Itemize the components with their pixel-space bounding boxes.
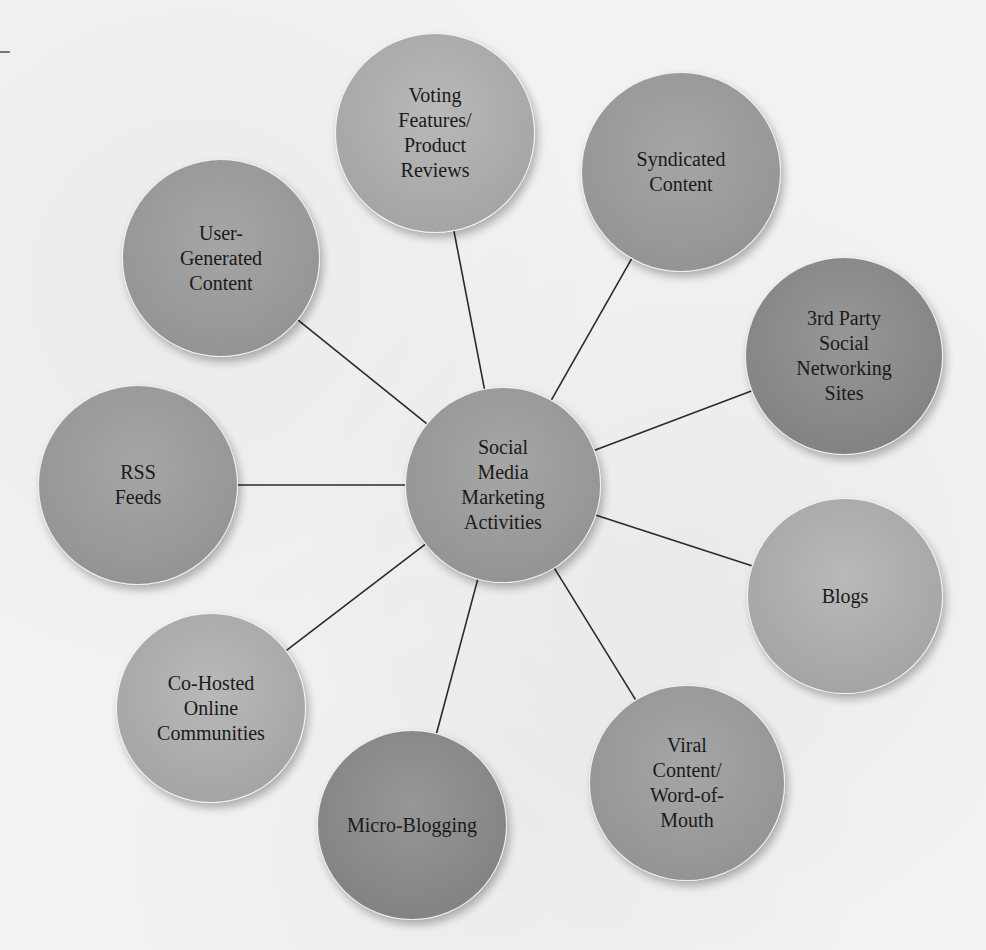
node-label: Syndicated Content: [627, 147, 736, 197]
node-label: Voting Features/ Product Reviews: [388, 83, 481, 183]
node-label: Viral Content/ Word-of- Mouth: [640, 733, 734, 833]
node-label: RSS Feeds: [105, 460, 172, 510]
node-user-generated-content: User- Generated Content: [122, 159, 320, 357]
connector-line-third-party: [595, 391, 752, 450]
connector-line-voting: [454, 231, 484, 389]
node-label: Micro-Blogging: [337, 813, 487, 838]
node-viral-content-word-of-mouth: Viral Content/ Word-of- Mouth: [589, 685, 785, 881]
connector-line-blogs: [596, 515, 752, 565]
center-node-social-media-marketing: Social Media Marketing Activities: [405, 387, 601, 583]
node-syndicated-content: Syndicated Content: [581, 72, 781, 272]
social-media-marketing-diagram: Social Media Marketing Activities Voting…: [0, 0, 986, 950]
connector-line-syndicated: [551, 259, 631, 400]
center-node-label: Social Media Marketing Activities: [451, 435, 554, 535]
node-voting-features-product-reviews: Voting Features/ Product Reviews: [335, 33, 535, 233]
node-label: Co-Hosted Online Communities: [147, 671, 275, 746]
node-label: User- Generated Content: [170, 221, 272, 296]
connector-line-co-hosted: [287, 544, 426, 650]
connector-line-user-generated: [298, 320, 427, 423]
node-rss-feeds: RSS Feeds: [38, 385, 238, 585]
connector-line-viral: [554, 568, 635, 699]
connector-line-micro-blogging: [437, 580, 478, 734]
node-micro-blogging: Micro-Blogging: [317, 730, 507, 920]
node-label: Blogs: [812, 584, 879, 609]
node-blogs: Blogs: [747, 498, 943, 694]
node-3rd-party-social-networking-sites: 3rd Party Social Networking Sites: [745, 257, 943, 455]
node-label: 3rd Party Social Networking Sites: [786, 306, 902, 406]
node-co-hosted-online-communities: Co-Hosted Online Communities: [116, 613, 306, 803]
